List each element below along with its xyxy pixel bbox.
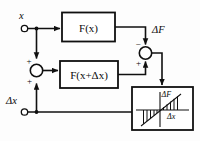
signal-label-delta-f: ΔF	[151, 24, 165, 35]
input-label-dx: Δx	[5, 95, 17, 106]
input-terminal-x[interactable]	[21, 25, 27, 31]
terminal-circle-x[interactable]	[21, 25, 27, 31]
block-fx-label: F(x)	[79, 22, 98, 35]
wire-sum-to-plot	[152, 53, 162, 85]
diagram-canvas: x F(x) ΔF − + + + F(x+Δx) Δx	[0, 0, 200, 141]
wire-fxdx-to-sum	[118, 62, 146, 75]
terminal-circle-dx[interactable]	[21, 109, 27, 115]
plot-x-axis-label: Δx	[166, 112, 176, 121]
block-diagram: x F(x) ΔF − + + + F(x+Δx) Δx	[0, 0, 200, 141]
sum-junction-left[interactable]	[30, 64, 42, 76]
sum-right-top-sign: −	[136, 39, 141, 49]
sum-right-bottom-sign: +	[136, 58, 141, 68]
sum-left-bottom-sign: +	[27, 76, 32, 86]
wire-fx-to-sum	[115, 27, 146, 45]
input-terminal-dx[interactable]	[21, 109, 27, 115]
block-fxdx-label: F(x+Δx)	[70, 69, 108, 82]
plot-y-axis-label: ΔF	[161, 90, 172, 99]
input-label-x: x	[18, 10, 24, 21]
sum-junction-right[interactable]	[139, 47, 151, 59]
sum-left-top-sign: +	[27, 56, 32, 66]
